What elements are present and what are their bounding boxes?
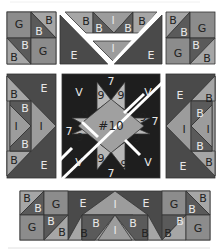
label-b: B	[199, 192, 207, 205]
label-7: 7	[108, 75, 115, 88]
label-b: B	[45, 14, 53, 27]
label-b: B	[80, 227, 88, 240]
label-b: B	[176, 215, 184, 228]
label-9: 9	[82, 108, 89, 121]
label-i: I	[111, 42, 114, 55]
label-e: E	[143, 197, 150, 210]
label-block-number: #10	[98, 119, 123, 133]
label-7: 7	[152, 115, 159, 128]
label-b: B	[95, 22, 103, 35]
label-b: B	[82, 15, 90, 28]
label-g: G	[194, 222, 203, 235]
label-g: G	[39, 45, 48, 58]
label-b: B	[129, 217, 137, 230]
label-9: 9	[134, 132, 141, 145]
label-b: B	[192, 39, 200, 52]
label-7: 7	[66, 125, 73, 138]
label-b: B	[23, 192, 31, 205]
label-e: E	[41, 82, 48, 95]
label-i: I	[111, 14, 114, 27]
label-e: E	[180, 160, 187, 173]
label-b: B	[47, 215, 55, 228]
label-9: 9	[98, 89, 105, 102]
label-b: B	[138, 15, 146, 28]
label-b: B	[124, 22, 132, 35]
label-b: B	[180, 26, 188, 39]
label-b: B	[21, 138, 29, 151]
label-e: E	[148, 49, 155, 62]
label-e: E	[41, 159, 48, 172]
label-i: I	[113, 198, 116, 211]
label-i: I	[14, 120, 17, 133]
label-g: G	[28, 221, 37, 234]
label-9: 9	[98, 152, 105, 165]
label-e: E	[80, 197, 87, 210]
label-i: I	[182, 123, 185, 136]
label-e: E	[71, 49, 78, 62]
label-i: I	[206, 123, 209, 136]
label-b: B	[203, 52, 211, 65]
label-b: B	[188, 203, 196, 216]
label-b: B	[21, 102, 29, 115]
label-b: B	[35, 25, 43, 38]
label-7: 7	[108, 167, 115, 180]
label-i: I	[39, 120, 42, 133]
label-b: B	[34, 202, 42, 215]
label-9: 9	[121, 158, 128, 171]
label-b: B	[92, 217, 100, 230]
label-g: G	[15, 18, 24, 31]
label-9: 9	[118, 89, 125, 102]
label-b: B	[164, 227, 172, 240]
label-b: B	[10, 88, 18, 101]
label-g: G	[170, 198, 179, 211]
label-9: 9	[140, 111, 147, 124]
label-b: B	[141, 227, 149, 240]
label-g: G	[52, 198, 61, 211]
label-b: B	[21, 39, 29, 52]
label-b: B	[58, 226, 66, 239]
label-i: I	[113, 224, 116, 237]
label-g: G	[174, 47, 183, 60]
label-b: B	[10, 154, 18, 167]
label-9: 9	[77, 131, 84, 144]
label-b: B	[196, 107, 204, 120]
quilt-diagram: G B B B B G B B I B B I E E	[0, 0, 222, 251]
label-b: B	[196, 140, 204, 153]
label-g: G	[198, 22, 207, 35]
label-b: B	[205, 92, 213, 105]
label-e: E	[177, 89, 184, 102]
label-b: B	[169, 14, 177, 27]
label-v: V	[75, 86, 83, 99]
label-b: B	[205, 156, 213, 169]
label-v: V	[75, 156, 83, 169]
label-v: V	[144, 86, 152, 99]
label-v: V	[144, 156, 152, 169]
label-b: B	[10, 51, 18, 64]
